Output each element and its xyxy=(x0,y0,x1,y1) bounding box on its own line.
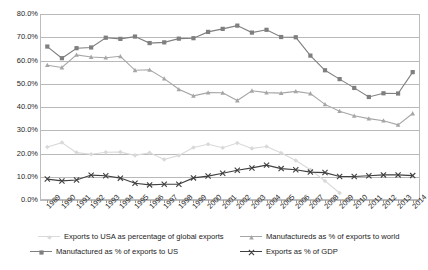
data-point-marker xyxy=(47,235,52,240)
data-point-marker xyxy=(249,235,254,239)
legend-label: Manufactured as % of exports to US xyxy=(56,247,178,256)
chart-legend: Exports to USA as percentage of global e… xyxy=(0,232,428,266)
legend-label: Exports as % of GDP xyxy=(266,247,338,256)
legend-item[interactable]: Exports to USA as percentage of global e… xyxy=(38,232,224,241)
x-axis-tick-label: 2014 xyxy=(411,193,428,210)
line-chart: 0.0%10.0%20.0%30.0%40.0%50.0%60.0%70.0%8… xyxy=(0,0,428,270)
legend-item[interactable]: Exports as % of GDP xyxy=(240,247,338,256)
legend-marker-square-icon xyxy=(30,247,52,256)
data-point-marker xyxy=(39,250,43,254)
data-point-marker xyxy=(249,249,254,254)
legend-item[interactable]: Manufactureds as % of exports to world xyxy=(240,232,399,241)
x-axis: 1989199019911992199319941995199619971998… xyxy=(0,0,428,270)
legend-label: Exports to USA as percentage of global e… xyxy=(64,232,224,241)
legend-marker-diamond-icon xyxy=(38,232,60,241)
legend-marker-triangle-icon xyxy=(240,232,262,241)
legend-label: Manufactureds as % of exports to world xyxy=(266,232,399,241)
legend-item[interactable]: Manufactured as % of exports to US xyxy=(30,247,178,256)
legend-marker-cross-icon xyxy=(240,247,262,256)
